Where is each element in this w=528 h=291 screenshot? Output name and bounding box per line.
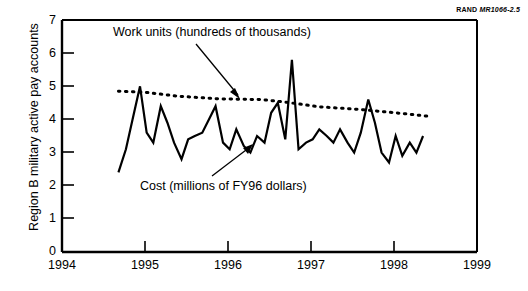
- series-line-cost: [118, 60, 423, 173]
- x-tick-label-1996: 1996: [198, 258, 258, 272]
- chart-figure: RAND MR1066-2.5 Region B military active…: [0, 0, 528, 291]
- arrow-to-cost: [212, 144, 253, 176]
- y-tick-label-5: 5: [36, 79, 56, 93]
- x-tick-label-1994: 1994: [32, 258, 92, 272]
- axes-frame: [62, 20, 477, 252]
- annotation-work-units: Work units (hundreds of thousands): [113, 25, 311, 39]
- x-tick-label-1998: 1998: [364, 258, 424, 272]
- y-tick-label-4: 4: [36, 112, 56, 126]
- y-axis-ticks: [62, 53, 74, 218]
- y-tick-label-0: 0: [36, 244, 56, 258]
- y-tick-label-1: 1: [36, 211, 56, 225]
- y-tick-label-2: 2: [36, 178, 56, 192]
- arrow-to-work-units: [196, 44, 240, 99]
- source-brand: RAND: [456, 6, 477, 13]
- x-tick-label-1997: 1997: [281, 258, 341, 272]
- source-tag: RAND MR1066-2.5: [456, 6, 520, 13]
- x-tick-label-1999: 1999: [447, 258, 507, 272]
- y-tick-label-7: 7: [36, 13, 56, 27]
- plot-area: [0, 0, 528, 291]
- source-code: MR1066-2.5: [479, 6, 520, 13]
- y-tick-label-3: 3: [36, 145, 56, 159]
- series-line-work-units: [118, 91, 427, 116]
- y-tick-label-6: 6: [36, 46, 56, 60]
- x-axis-ticks: [145, 241, 394, 252]
- x-tick-label-1995: 1995: [115, 258, 175, 272]
- annotation-cost: Cost (millions of FY96 dollars): [140, 179, 307, 193]
